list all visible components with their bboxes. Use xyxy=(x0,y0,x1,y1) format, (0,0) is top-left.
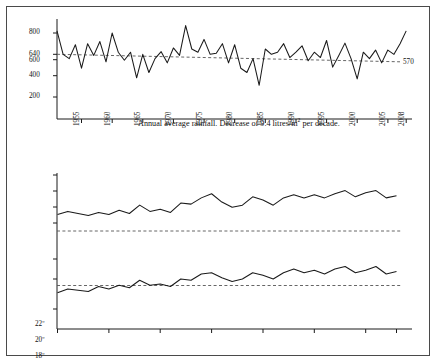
rainfall-xtick-2005: 2005 xyxy=(379,112,387,126)
chart-frame: 800 640 600 400 200 570 Annual average r… xyxy=(6,6,430,356)
tmax-ytick-22: 22º xyxy=(35,320,44,328)
rainfall-caption-main: Annual average rainfall. Decrease of 9.4… xyxy=(138,119,298,128)
rainfall-xtick-1975: 1975 xyxy=(196,112,204,126)
tmax-ytick-20: 20º xyxy=(35,336,44,344)
temperature-panel: 22º 20º 18º 16º 14º 12º 10º Annual maxim… xyxy=(7,157,431,357)
rainfall-xtick-1970: 1970 xyxy=(165,112,173,126)
rainfall-xtick-2000: 2000 xyxy=(349,112,357,126)
rainfall-trend-value: 570 xyxy=(403,58,414,66)
rainfall-plot xyxy=(7,7,431,157)
rainfall-ytick-400: 400 xyxy=(29,71,40,79)
rainfall-xtick-1960: 1960 xyxy=(104,112,112,126)
rainfall-panel: 800 640 600 400 200 570 Annual average r… xyxy=(7,7,431,157)
rainfall-xtick-2008: 2008 xyxy=(398,112,406,126)
rainfall-xtick-1985: 1985 xyxy=(257,112,265,126)
rainfall-ytick-800: 800 xyxy=(29,28,40,36)
tmax-ytick-18: 18º xyxy=(35,352,44,360)
rainfall-xtick-1980: 1980 xyxy=(226,112,234,126)
rainfall-xtick-1990: 1990 xyxy=(288,112,296,126)
rainfall-xtick-1955: 1955 xyxy=(73,112,81,126)
temperature-plot xyxy=(7,157,431,357)
rainfall-xtick-1965: 1965 xyxy=(134,112,142,126)
rainfall-xtick-1995: 1995 xyxy=(318,112,326,126)
rainfall-ytick-200: 200 xyxy=(29,92,40,100)
rainfall-ytick-600: 600 xyxy=(29,56,40,64)
